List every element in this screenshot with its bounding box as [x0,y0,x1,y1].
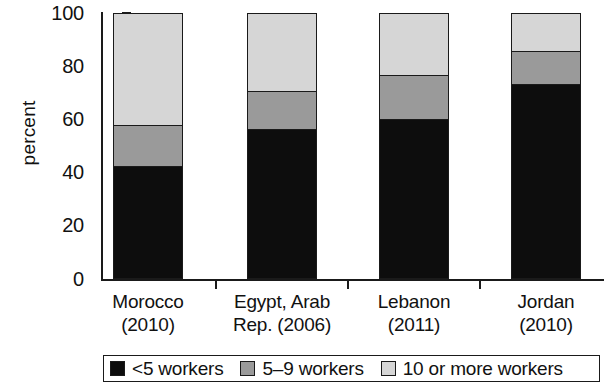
bar-segment-10-or-more [380,14,448,75]
bar-segment-under-5 [512,85,580,278]
y-axis-line [101,12,103,280]
stacked-bar [113,13,183,279]
x-axis-label-morocco: Morocco (2010) [73,290,223,336]
gray-swatch-icon [240,361,255,376]
legend-item-5-9: 5–9 workers [240,359,363,378]
bar-segment-10-or-more [114,14,182,125]
stacked-bar [379,13,449,279]
bar-segment-5-9 [512,51,580,85]
stacked-bar [511,13,581,279]
x-tick-mark-1 [215,279,217,289]
x-label-line-2: (2010) [73,313,223,336]
x-tick-mark-2 [347,279,349,289]
bar-group-egypt [247,13,317,279]
x-label-line-1: Morocco [73,290,223,313]
y-tick-label-60: 60 [30,109,84,129]
y-tick-label-80: 80 [30,56,84,76]
legend-label-10-or-more: 10 or more workers [403,359,563,378]
bar-segment-5-9 [114,125,182,167]
stacked-bar [247,13,317,279]
x-axis-label-lebanon: Lebanon (2011) [339,290,489,336]
x-label-line-2: Rep. (2006) [207,313,357,336]
y-tick-label-40: 40 [30,162,84,182]
y-tick-label-100: 100 [30,3,84,23]
bar-group-jordan [511,13,581,279]
x-label-line-2: (2010) [471,313,604,336]
y-tick-label-0: 0 [30,269,84,289]
bar-segment-under-5 [248,130,316,278]
x-label-line-1: Lebanon [339,290,489,313]
x-axis-label-jordan: Jordan (2010) [471,290,604,336]
bar-group-morocco [113,13,183,279]
legend-label-under-5: <5 workers [132,359,223,378]
bar-segment-10-or-more [248,14,316,91]
bar-segment-10-or-more [512,14,580,51]
bar-segment-under-5 [114,167,182,278]
x-label-line-2: (2011) [339,313,489,336]
x-axis-label-egypt: Egypt, Arab Rep. (2006) [207,290,357,336]
chart-legend: <5 workers 5–9 workers 10 or more worker… [103,355,600,382]
legend-item-under-5: <5 workers [110,359,223,378]
x-label-line-1: Egypt, Arab [207,290,357,313]
y-tick-label-20: 20 [30,215,84,235]
bar-segment-under-5 [380,120,448,278]
bar-segment-5-9 [380,75,448,120]
bar-group-lebanon [379,13,449,279]
bar-segment-5-9 [248,91,316,131]
black-swatch-icon [110,361,125,376]
legend-item-10-or-more: 10 or more workers [381,359,563,378]
light-gray-swatch-icon [381,361,396,376]
x-axis-line [101,279,604,281]
x-tick-mark-3 [479,279,481,289]
stacked-bar-chart: percent 100 80 60 40 20 0 [0,0,604,385]
x-label-line-1: Jordan [471,290,604,313]
legend-label-5-9: 5–9 workers [262,359,363,378]
